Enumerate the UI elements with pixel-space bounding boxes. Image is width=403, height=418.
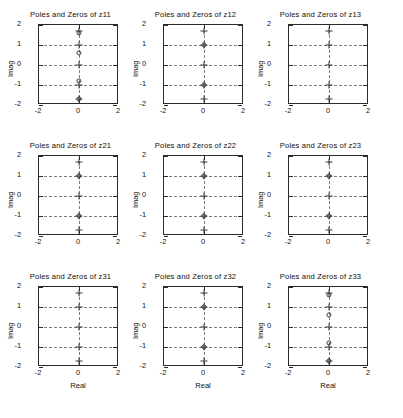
pole-marker — [326, 158, 333, 165]
y-tick-right — [113, 105, 117, 106]
y-tick-right — [363, 105, 367, 106]
y-tick-label: 1 — [128, 40, 146, 47]
y-tick — [164, 287, 168, 288]
y-tick-label: 0 — [3, 60, 21, 67]
y-tick — [164, 156, 168, 157]
y-tick — [289, 25, 293, 26]
pole-marker — [201, 324, 208, 331]
pole-marker — [76, 344, 83, 351]
x-axis-label: Real — [38, 381, 118, 390]
y-tick-right — [113, 45, 117, 46]
pole-marker — [326, 304, 333, 311]
x-tick-label: 0 — [69, 238, 87, 245]
plot-area — [38, 24, 118, 104]
y-tick-right — [363, 347, 367, 348]
y-tick-label: -2 — [128, 100, 146, 107]
y-tick-label: -1 — [3, 211, 21, 218]
subplot-z13: Poles and Zeros of z13Imag-2-1012-202 — [258, 10, 383, 149]
y-tick-right — [363, 156, 367, 157]
y-tick-label: -1 — [3, 342, 21, 349]
y-tick-label: 1 — [253, 302, 271, 309]
pole-marker — [76, 193, 83, 200]
subplot-z22: Poles and Zeros of z22Imag-2-1012-202 — [133, 141, 258, 280]
y-tick-right — [113, 65, 117, 66]
pole-marker — [76, 213, 83, 220]
y-tick — [164, 45, 168, 46]
y-tick — [289, 287, 293, 288]
x-tick-label: -2 — [154, 107, 172, 114]
y-tick — [39, 105, 43, 106]
y-tick-label: 2 — [3, 151, 21, 158]
y-tick — [289, 85, 293, 86]
plot-area — [288, 286, 368, 366]
y-tick-right — [238, 85, 242, 86]
x-tick-label: 2 — [234, 369, 252, 376]
y-tick — [164, 25, 168, 26]
y-tick-label: 1 — [3, 40, 21, 47]
y-tick-right — [363, 196, 367, 197]
y-tick-right — [363, 287, 367, 288]
pole-marker — [326, 227, 333, 234]
x-tick-label: -2 — [279, 107, 297, 114]
y-tick-label: 2 — [3, 20, 21, 27]
pole-marker — [201, 304, 208, 311]
zero-marker — [76, 50, 81, 55]
x-tick-label: 2 — [234, 107, 252, 114]
y-tick-right — [113, 236, 117, 237]
x-axis-label: Real — [163, 381, 243, 390]
y-tick — [164, 176, 168, 177]
y-tick-right — [363, 307, 367, 308]
y-tick-right — [363, 176, 367, 177]
x-tick-label: 2 — [109, 369, 127, 376]
pole-marker — [76, 324, 83, 331]
y-tick-label: -2 — [253, 362, 271, 369]
y-tick-right — [113, 347, 117, 348]
y-tick-right — [238, 105, 242, 106]
pole-marker — [201, 158, 208, 165]
zero-marker — [326, 312, 331, 317]
y-tick — [289, 45, 293, 46]
plot-area — [38, 155, 118, 235]
y-tick-label: -2 — [253, 100, 271, 107]
x-tick-label: -2 — [29, 238, 47, 245]
y-tick-right — [113, 85, 117, 86]
y-tick-label: -2 — [128, 231, 146, 238]
x-tick-label: -2 — [29, 369, 47, 376]
subplot-title: Poles and Zeros of z33 — [258, 272, 383, 281]
pole-marker — [201, 193, 208, 200]
x-tick-label: -2 — [279, 238, 297, 245]
y-tick-right — [363, 327, 367, 328]
y-tick-label: -1 — [128, 211, 146, 218]
subplot-title: Poles and Zeros of z22 — [133, 141, 258, 150]
y-tick — [289, 176, 293, 177]
y-tick-right — [238, 287, 242, 288]
y-tick-label: -2 — [253, 231, 271, 238]
y-tick — [164, 196, 168, 197]
y-tick — [39, 347, 43, 348]
x-tick-label: 2 — [359, 238, 377, 245]
x-tick-label: -2 — [154, 369, 172, 376]
y-tick-right — [238, 45, 242, 46]
x-tick-label: -2 — [29, 107, 47, 114]
y-tick-label: -1 — [3, 80, 21, 87]
y-tick — [39, 307, 43, 308]
pole-marker — [326, 42, 333, 49]
y-tick — [39, 25, 43, 26]
y-tick — [289, 347, 293, 348]
y-tick-label: 1 — [253, 171, 271, 178]
y-tick — [289, 156, 293, 157]
y-tick-label: 2 — [253, 282, 271, 289]
y-tick-label: 2 — [128, 20, 146, 27]
x-tick-label: 0 — [69, 369, 87, 376]
y-tick-label: 2 — [253, 151, 271, 158]
y-tick-right — [363, 216, 367, 217]
y-tick — [164, 347, 168, 348]
x-tick-label: 0 — [194, 238, 212, 245]
subplot-z12: Poles and Zeros of z12Imag-2-1012-202 — [133, 10, 258, 149]
y-tick — [289, 236, 293, 237]
y-tick-right — [238, 327, 242, 328]
y-tick-label: -1 — [253, 342, 271, 349]
y-tick-label: 2 — [253, 20, 271, 27]
y-tick-right — [113, 156, 117, 157]
y-tick-right — [363, 367, 367, 368]
